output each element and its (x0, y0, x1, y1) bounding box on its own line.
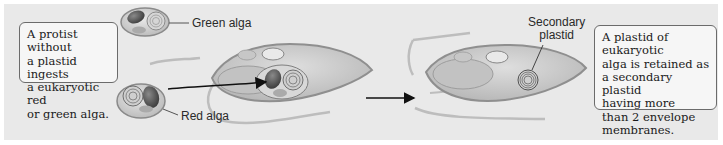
protist-cell-with-secondary-plastid (426, 45, 586, 101)
caption-step-2: A plastid of eukaryotic alga is retained… (594, 25, 717, 110)
secondary-plastid (518, 70, 538, 90)
caption-step-1: A protist without a plastid ingests a eu… (19, 22, 118, 83)
label-secondary-plastid: Secondary plastid (528, 16, 585, 42)
flagellum (409, 40, 413, 75)
flagellum (415, 108, 545, 119)
green-alga (121, 8, 189, 36)
label-green-alga: Green alga (192, 17, 251, 30)
flagellum (150, 58, 200, 64)
label-red-alga: Red alga (181, 110, 229, 123)
flagellum (413, 33, 470, 40)
protist-cell-engulfing (212, 44, 372, 101)
